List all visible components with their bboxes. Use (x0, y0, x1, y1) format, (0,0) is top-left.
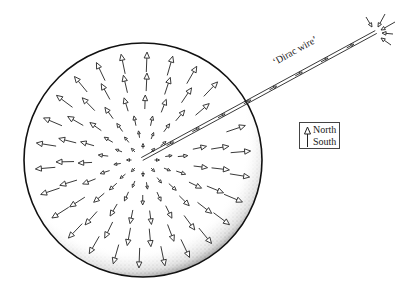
legend: North South (299, 122, 340, 149)
legend-south-label: South (313, 136, 336, 147)
north-south-arrow-icon (303, 126, 312, 148)
legend-north-label: North (313, 124, 336, 135)
field-arrow-icon (382, 32, 393, 36)
monopole-diagram (0, 0, 415, 293)
field-arrow-icon (378, 14, 385, 27)
field-arrow-icon (381, 38, 391, 45)
field-arrow-icon (381, 22, 395, 30)
wire-end-arrows (366, 14, 395, 45)
field-arrow-icon (366, 17, 372, 27)
